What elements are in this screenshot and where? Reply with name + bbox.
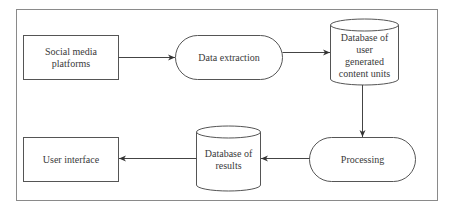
label-social-media: Social media platforms [24, 36, 118, 80]
label-user-interface: User interface [24, 138, 118, 182]
label-db-ugc: Database of user generated content units [331, 30, 398, 82]
label-data-extraction: Data extraction [176, 36, 282, 80]
label-db-results: Database of results [197, 140, 260, 180]
label-processing: Processing [310, 138, 415, 182]
